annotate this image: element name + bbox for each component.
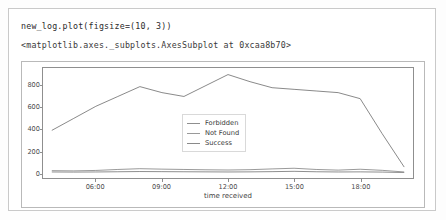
y-tick-label: 0 [22, 170, 40, 178]
y-tick-label: 400 [22, 125, 40, 133]
y-axis-ticks: 0200400600800 [21, 67, 40, 179]
x-tick-label: 12:00 [218, 183, 237, 191]
legend-label: Success [205, 139, 232, 147]
y-tick-label: 200 [22, 148, 40, 156]
x-axis-label: time received [42, 192, 414, 200]
legend-line-icon [187, 123, 200, 124]
x-tick-mark [361, 179, 362, 182]
legend-item: Forbidden [187, 118, 239, 128]
line-forbidden [52, 171, 404, 172]
legend-label: Forbidden [205, 119, 238, 127]
legend-item: Success [187, 138, 239, 148]
legend-label: Not Found [205, 129, 239, 137]
legend-item: Not Found [187, 128, 239, 138]
y-tick-label: 600 [22, 103, 40, 111]
matplotlib-figure: 0200400600800 06:0009:0012:0015:0018:00 … [21, 61, 425, 208]
x-tick-label: 09:00 [152, 183, 171, 191]
x-tick-mark [162, 179, 163, 182]
x-tick-mark [294, 179, 295, 182]
code-output-repr: <matplotlib.axes._subplots.AxesSubplot a… [21, 40, 291, 50]
y-tick-label: 800 [22, 81, 40, 89]
code-input-line[interactable]: new_log.plot(figsize=(10, 3)) [21, 21, 172, 31]
x-tick-label: 18:00 [351, 183, 370, 191]
x-tick-label: 15:00 [285, 183, 304, 191]
x-tick-mark [228, 179, 229, 182]
screenshot-root: new_log.plot(figsize=(10, 3)) <matplotli… [0, 0, 446, 220]
legend-line-icon [187, 133, 200, 134]
x-tick-mark [95, 179, 96, 182]
x-tick-label: 06:00 [86, 183, 105, 191]
legend-line-icon [187, 143, 200, 144]
notebook-cell: new_log.plot(figsize=(10, 3)) <matplotli… [8, 8, 436, 211]
plot-legend: Forbidden Not Found Success [182, 114, 246, 152]
